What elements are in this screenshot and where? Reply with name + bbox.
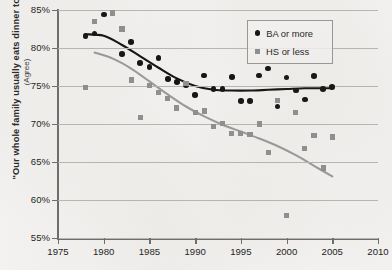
data-point-ba-or-more (192, 92, 198, 98)
gridline-y (58, 10, 378, 11)
y-axis-tick-label: 60% (10, 194, 50, 205)
data-point-hs-or-less (238, 131, 243, 136)
data-point-hs-or-less (138, 115, 143, 120)
chart-legend: BA or more HS or less (247, 20, 333, 64)
x-axis-tick (149, 238, 150, 244)
data-point-hs-or-less (110, 10, 115, 15)
legend-circle-marker-icon (255, 30, 260, 35)
x-axis-tick (378, 238, 379, 244)
data-point-hs-or-less (275, 98, 280, 103)
x-axis-tick (104, 238, 105, 244)
data-point-ba-or-more (302, 97, 308, 103)
x-axis-tick (241, 238, 242, 244)
data-point-ba-or-more (147, 64, 153, 70)
data-point-ba-or-more (165, 76, 171, 82)
y-axis-tick-label: 70% (10, 118, 50, 129)
data-point-hs-or-less (193, 110, 198, 115)
x-axis-tick-label: 1980 (82, 246, 126, 257)
x-axis-tick (287, 238, 288, 244)
x-axis-tick-label: 1990 (173, 246, 217, 257)
legend-label-hs-or-less: HS or less (266, 46, 309, 57)
gridline-y (58, 124, 378, 125)
data-point-ba-or-more (83, 33, 89, 39)
y-axis-tick-label: 80% (10, 42, 50, 53)
data-point-ba-or-more (101, 12, 107, 18)
y-axis-tick-label: 55% (10, 232, 50, 243)
data-point-ba-or-more (256, 73, 262, 79)
data-point-hs-or-less (92, 19, 97, 24)
data-point-ba-or-more (293, 88, 299, 94)
legend-label-ba-or-more: BA or more (266, 28, 313, 39)
data-point-hs-or-less (183, 81, 188, 86)
data-point-hs-or-less (147, 83, 152, 88)
y-axis-tick-label: 75% (10, 80, 50, 91)
data-point-ba-or-more (320, 86, 326, 92)
data-point-hs-or-less (321, 165, 326, 170)
footnote-text (10, 261, 250, 270)
y-axis-tick (52, 48, 58, 49)
data-point-hs-or-less (311, 133, 316, 138)
data-point-hs-or-less (119, 26, 124, 31)
chart-figure: "Our whole family usually eats dinner to… (0, 0, 392, 270)
x-axis-tick-label: 1985 (127, 246, 171, 257)
data-point-hs-or-less (330, 134, 335, 139)
data-point-ba-or-more (229, 74, 235, 80)
x-axis-tick (58, 238, 59, 244)
data-point-hs-or-less (83, 85, 88, 90)
data-point-hs-or-less (165, 96, 170, 101)
legend-square-marker-icon (255, 49, 260, 54)
x-axis-tick (195, 238, 196, 244)
data-point-hs-or-less (229, 131, 234, 136)
x-axis-tick-label: 2010 (356, 246, 392, 257)
gridline-y (58, 238, 378, 239)
data-point-hs-or-less (211, 124, 216, 129)
data-point-hs-or-less (220, 121, 225, 126)
data-point-hs-or-less (302, 146, 307, 151)
x-axis-tick-label: 1995 (219, 246, 263, 257)
data-point-hs-or-less (129, 77, 134, 82)
data-point-ba-or-more (311, 73, 317, 79)
data-point-ba-or-more (211, 86, 217, 92)
legend-item-hs-or-less: HS or less (255, 44, 309, 58)
y-axis-tick (52, 10, 58, 11)
y-axis-tick (52, 162, 58, 163)
data-point-ba-or-more (329, 84, 335, 90)
x-axis-tick (332, 238, 333, 244)
data-point-hs-or-less (257, 121, 262, 126)
data-point-ba-or-more (128, 39, 134, 45)
data-point-hs-or-less (284, 213, 289, 218)
y-axis-tick-label: 65% (10, 156, 50, 167)
y-axis-tick (52, 200, 58, 201)
data-point-ba-or-more (247, 98, 253, 104)
x-axis-tick-label: 1975 (36, 246, 80, 257)
gridline-y (58, 200, 378, 201)
y-axis-tick-label: 85% (10, 4, 50, 15)
x-axis-tick-label: 2000 (265, 246, 309, 257)
y-axis-tick (52, 124, 58, 125)
data-point-hs-or-less (266, 150, 271, 155)
gridline-y (58, 162, 378, 163)
data-point-hs-or-less (293, 110, 298, 115)
data-point-hs-or-less (156, 90, 161, 95)
data-point-ba-or-more (174, 79, 180, 85)
y-axis-tick (52, 86, 58, 87)
data-point-hs-or-less (174, 105, 179, 110)
x-axis-tick-label: 2005 (310, 246, 354, 257)
data-point-ba-or-more (119, 51, 125, 57)
data-point-hs-or-less (247, 132, 252, 137)
data-point-ba-or-more (238, 98, 244, 104)
legend-item-ba-or-more: BA or more (255, 26, 313, 40)
data-point-ba-or-more (156, 55, 162, 61)
data-point-hs-or-less (202, 108, 207, 113)
